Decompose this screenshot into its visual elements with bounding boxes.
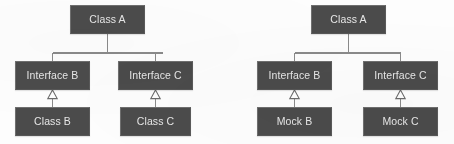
left-diagram: Class A Interface B Interface C Class B … xyxy=(0,0,227,144)
node-label: Class A xyxy=(330,14,366,25)
node-label: Class B xyxy=(34,116,71,127)
node-label: Interface C xyxy=(129,70,181,81)
node-label: Mock B xyxy=(277,116,313,127)
node-label: Interface B xyxy=(269,70,321,81)
realization-arrow-b xyxy=(48,90,57,99)
node-mock-b[interactable]: Mock B xyxy=(257,107,332,136)
node-interface-b[interactable]: Interface B xyxy=(15,61,90,90)
node-label: Interface B xyxy=(27,70,79,81)
node-interface-c[interactable]: Interface C xyxy=(118,61,193,90)
node-interface-b[interactable]: Interface B xyxy=(257,61,332,90)
node-class-a[interactable]: Class A xyxy=(70,5,145,34)
realization-arrow-c xyxy=(396,90,405,99)
realization-arrow-c xyxy=(151,90,160,99)
node-class-c[interactable]: Class C xyxy=(120,107,191,136)
node-interface-c[interactable]: Interface C xyxy=(363,61,438,90)
node-class-b[interactable]: Class B xyxy=(15,107,90,136)
node-label: Interface C xyxy=(374,70,426,81)
realization-arrow-b xyxy=(290,90,299,99)
node-label: Class C xyxy=(137,116,174,127)
right-diagram: Class A Interface B Interface C Mock B M… xyxy=(227,0,454,144)
node-class-a[interactable]: Class A xyxy=(311,5,386,34)
diagram-canvas: Class A Interface B Interface C Class B … xyxy=(0,0,454,144)
node-label: Mock C xyxy=(382,116,418,127)
node-mock-c[interactable]: Mock C xyxy=(363,107,438,136)
node-label: Class A xyxy=(89,14,125,25)
